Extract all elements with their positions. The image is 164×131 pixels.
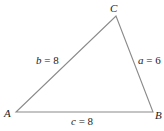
side-label-c: c = 8: [71, 115, 94, 127]
vertex-label-b: B: [155, 109, 162, 121]
triangle-diagram: C A B b = 8 a = 6 c = 8: [0, 0, 164, 131]
vertex-label-c: C: [110, 2, 118, 14]
side-label-b: b = 8: [36, 54, 59, 66]
side-label-a: a = 6: [138, 54, 161, 66]
vertex-label-a: A: [3, 107, 11, 119]
